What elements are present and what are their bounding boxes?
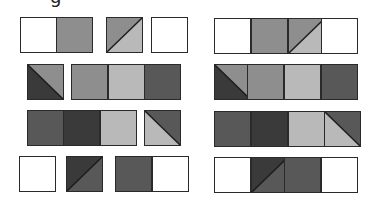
pattern-tile [284,157,321,193]
pattern-tile [251,18,288,54]
diagonal-split-icon [215,65,250,99]
pattern-tile [63,110,100,146]
pattern-tile [214,64,251,100]
pattern-tile [321,157,358,193]
diagonal-split-icon [107,18,142,52]
pattern-tile [324,111,361,147]
pattern-tile [151,17,188,53]
pattern-tile [247,64,284,100]
diagonal-split-icon [28,65,63,99]
pattern-tile [214,157,251,193]
pattern-tile [152,156,189,192]
pattern-tile [56,17,93,53]
clipped-figure-title: g [50,0,61,7]
pattern-tile [214,111,251,147]
pattern-tile [251,157,288,193]
diagonal-split-icon [252,158,287,192]
diagonal-split-icon [67,157,102,191]
diagonal-split-icon [289,19,324,53]
pattern-tile [66,156,103,192]
pattern-tile [214,18,251,54]
pattern-tile [284,64,321,100]
pattern-tile [27,110,64,146]
pattern-tile [144,110,181,146]
pattern-tile [108,64,145,100]
pattern-tile [20,17,57,53]
pattern-tile [100,110,137,146]
pattern-tile [71,64,108,100]
pattern-tile [288,18,325,54]
pattern-tile [251,111,288,147]
pattern-tile [19,156,56,192]
pattern-tile [321,18,358,54]
pattern-tile [27,64,64,100]
pattern-tile [144,64,181,100]
pattern-tile [115,156,152,192]
diagonal-split-icon [145,111,180,145]
pattern-tile [106,17,143,53]
pattern-tile [288,111,325,147]
diagonal-split-icon [325,112,360,146]
pattern-tile [321,64,358,100]
